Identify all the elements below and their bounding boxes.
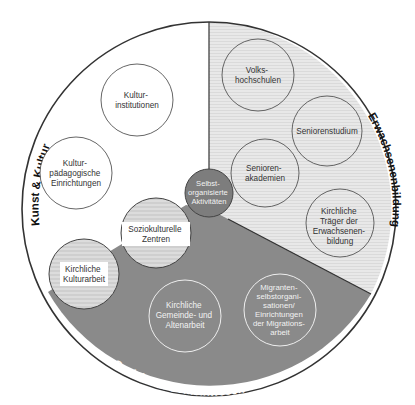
svg-text:Senioren- akademien: Senioren- akademien xyxy=(245,164,286,183)
node-kulturinstitutionen: Kultur- institutionen xyxy=(101,64,173,136)
node-seniorenstudium: Seniorenstudium xyxy=(292,96,362,166)
svg-text:Seniorenstudium: Seniorenstudium xyxy=(296,127,358,136)
node-soziokulturelle-zentren: Soziokulturelle Zentren xyxy=(121,198,191,268)
node-volkshochschulen: Volks- hochschulen xyxy=(222,39,294,111)
sector-diagram: Kunst & Kultur Erwachsenenbildung Sozial… xyxy=(0,0,415,405)
node-selbstorganisierte: Selbst- organisierte Aktivitäten xyxy=(185,169,233,217)
node-seniorenakademien: Senioren- akademien xyxy=(231,139,299,207)
node-kulturpaedagogische: Kultur- pädagogische Einrichtungen xyxy=(40,137,112,209)
node-kirchliche-traeger: Kirchliche Träger der Erwachsenen- bildu… xyxy=(306,189,374,257)
node-kirchliche-kulturarbeit: Kirchliche Kulturarbeit xyxy=(49,239,119,309)
svg-text:Kirchliche Kulturarbeit: Kirchliche Kulturarbeit xyxy=(63,265,106,284)
